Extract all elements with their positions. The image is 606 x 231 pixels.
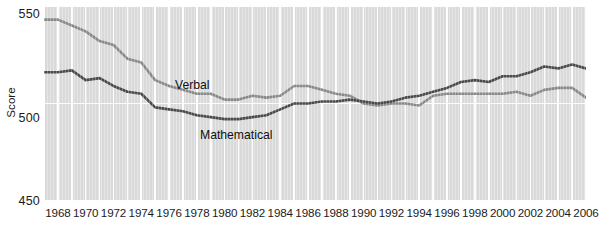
x-axis-tick-1998: 1998	[461, 206, 488, 219]
x-axis-tick-1972: 1972	[100, 206, 127, 219]
x-axis-tick-1992: 1992	[378, 206, 405, 219]
x-axis-tick-1968: 1968	[44, 206, 71, 219]
x-axis-tick-1994: 1994	[406, 206, 433, 219]
series-lines	[44, 6, 586, 201]
line-verbal	[44, 20, 586, 106]
sat-score-trend-chart: Score 550 500 450 1968197019721974197619…	[0, 0, 606, 231]
x-axis-tick-2004: 2004	[545, 206, 572, 219]
x-axis-tick-1974: 1974	[128, 206, 155, 219]
x-axis-tick-1990: 1990	[350, 206, 377, 219]
x-axis-tick-2000: 2000	[489, 206, 516, 219]
x-axis-tick-1986: 1986	[295, 206, 322, 219]
x-axis-tick-1984: 1984	[267, 206, 294, 219]
x-axis-tick-2006: 2006	[573, 206, 600, 219]
x-axis-tick-1980: 1980	[211, 206, 238, 219]
x-axis-tick-1970: 1970	[72, 206, 99, 219]
y-axis-tick-500: 500	[0, 111, 40, 125]
x-axis-tick-1982: 1982	[239, 206, 266, 219]
x-axis-tick-1988: 1988	[322, 206, 349, 219]
series-label-verbal: Verbal	[175, 78, 210, 92]
x-axis-tick-1978: 1978	[183, 206, 210, 219]
x-axis-tick-2002: 2002	[517, 206, 544, 219]
y-axis-tick-450: 450	[0, 194, 40, 208]
x-axis-tick-1996: 1996	[434, 206, 461, 219]
y-axis-tick-550: 550	[0, 7, 40, 21]
x-axis-tick-1976: 1976	[156, 206, 183, 219]
line-mathematical	[44, 65, 586, 120]
y-axis: Score 550 500 450	[0, 0, 40, 231]
plot-area	[44, 6, 586, 201]
series-label-mathematical: Mathematical	[200, 128, 272, 142]
